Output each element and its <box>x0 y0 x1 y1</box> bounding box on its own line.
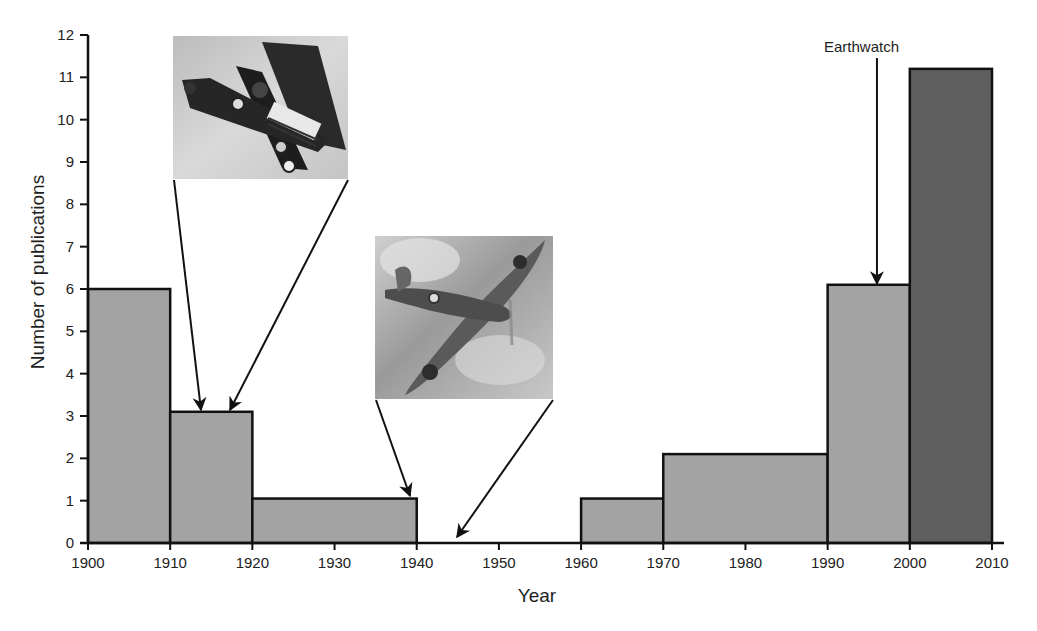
y-tick-label: 12 <box>57 26 74 43</box>
bar-1910-1920 <box>170 412 252 543</box>
y-axis-title: Number of publications <box>27 175 48 369</box>
bar-1900-1910 <box>88 289 170 543</box>
bar-2000-2010 <box>910 69 992 543</box>
x-tick-label: 1950 <box>482 554 515 571</box>
y-tick-label: 3 <box>66 407 74 424</box>
spitfire-arrow-1 <box>376 400 410 496</box>
x-tick-label: 1990 <box>811 554 844 571</box>
x-tick-label: 1920 <box>236 554 269 571</box>
x-tick-label: 1980 <box>729 554 762 571</box>
biplane-arrow-1 <box>174 180 201 410</box>
y-tick-label: 9 <box>66 153 74 170</box>
y-tick-label: 10 <box>57 111 74 128</box>
x-tick-label: 1910 <box>153 554 186 571</box>
biplane-photo <box>173 36 348 179</box>
y-tick-label: 5 <box>66 322 74 339</box>
x-tick-label: 1970 <box>647 554 680 571</box>
x-tick-label: 1940 <box>400 554 433 571</box>
y-tick-label: 0 <box>66 534 74 551</box>
bar-1960-1970 <box>581 499 663 543</box>
bar-1970-1990 <box>663 454 827 543</box>
y-tick-label: 6 <box>66 280 74 297</box>
spitfire-arrow-2 <box>457 400 553 537</box>
bar-1920-1940 <box>252 499 416 543</box>
y-tick-label: 1 <box>66 492 74 509</box>
x-tick-label: 1960 <box>564 554 597 571</box>
y-tick-label: 4 <box>66 365 74 382</box>
x-tick-label: 1900 <box>71 554 104 571</box>
earthwatch-label: Earthwatch <box>824 38 899 55</box>
y-tick-label: 11 <box>58 68 74 85</box>
biplane-arrow-2 <box>230 180 348 410</box>
x-axis-title: Year <box>518 585 557 606</box>
spitfire-photo <box>375 236 553 399</box>
x-tick-label: 2010 <box>975 554 1008 571</box>
y-tick-label: 8 <box>66 195 74 212</box>
y-tick-label: 2 <box>66 449 74 466</box>
publications-chart: 0123456789101112190019101920193019401950… <box>0 0 1037 631</box>
x-tick-label: 1930 <box>318 554 351 571</box>
y-tick-label: 7 <box>66 238 74 255</box>
bar-1990-2000 <box>828 285 910 543</box>
x-tick-label: 2000 <box>893 554 926 571</box>
